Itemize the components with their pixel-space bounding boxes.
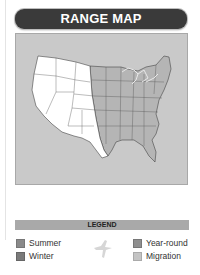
us-range-map [16, 34, 189, 186]
legend-label: Migration [146, 251, 181, 261]
legend-header: LEGEND [15, 220, 189, 230]
range-map-panel [15, 33, 188, 185]
year-round-swatch [133, 239, 142, 248]
legend-item-summer: Summer [16, 237, 61, 249]
migration-swatch [133, 252, 142, 261]
legend-label: Year-round [146, 238, 188, 248]
summer-swatch [16, 239, 25, 248]
legend-item-migration: Migration [133, 250, 181, 262]
legend-label: Winter [29, 251, 54, 261]
page-title: RANGE MAP [15, 9, 187, 29]
range-map-banner: RANGE MAP [15, 9, 187, 29]
legend-title: LEGEND [15, 220, 189, 230]
legend-item-winter: Winter [16, 250, 54, 262]
page-margin-rule [5, 0, 6, 240]
bird-silhouette-icon [92, 236, 114, 260]
winter-swatch [16, 252, 25, 261]
legend-item-year-round: Year-round [133, 237, 188, 249]
legend-label: Summer [29, 238, 61, 248]
